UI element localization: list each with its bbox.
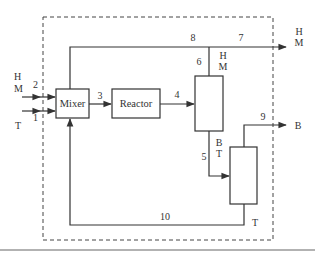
stream-7-label: 7: [239, 32, 244, 43]
stream-9-label: 9: [261, 111, 266, 122]
distillation-column-2: [230, 147, 257, 204]
feed2-component-m: M: [14, 83, 23, 94]
stream-1-label: 1: [33, 112, 38, 123]
stream-9: [244, 125, 286, 147]
feed1-component-t: T: [15, 120, 21, 131]
stream-8-label: 8: [191, 32, 196, 43]
process-flow-diagram: 2 H M 1 T Mixer 3 Reactor 4 6 H M 8 7 H …: [0, 0, 315, 253]
stream-8: [70, 47, 209, 89]
stream-10: [70, 119, 244, 225]
distillation-column-1: [195, 76, 223, 131]
out9-component-b: B: [295, 120, 302, 131]
stream-5-label: 5: [202, 151, 207, 162]
feed2-component-h: H: [14, 71, 21, 82]
mixer-label: Mixer: [60, 98, 86, 109]
stream-6-label: 6: [197, 56, 202, 67]
col2-bot-component-t: T: [252, 217, 258, 228]
system-boundary: [43, 17, 273, 240]
stream-4-label: 4: [175, 89, 180, 100]
stream-2-label: 2: [33, 79, 38, 90]
out7-component-m: M: [295, 37, 304, 48]
col1-top-component-h: H: [219, 50, 226, 61]
out7-component-h: H: [295, 26, 302, 37]
reactor-label: Reactor: [120, 98, 153, 109]
col1-top-component-m: M: [219, 61, 228, 72]
col1-bot-component-b: B: [216, 137, 223, 148]
col1-bot-component-t: T: [216, 148, 222, 159]
stream-3-label: 3: [98, 90, 103, 101]
stream-10-label: 10: [160, 211, 170, 222]
